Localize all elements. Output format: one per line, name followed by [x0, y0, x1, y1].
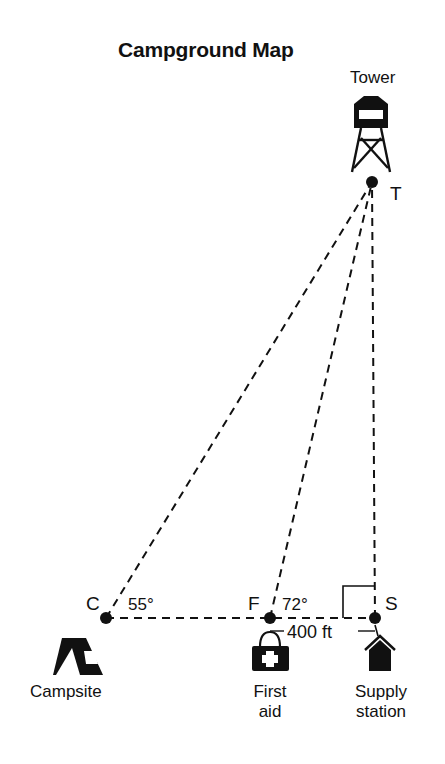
house-icon — [365, 625, 395, 671]
point-S — [369, 612, 381, 624]
point-C-letter: C — [86, 594, 100, 614]
campground-diagram — [0, 0, 445, 764]
line-FT — [270, 182, 372, 618]
line-ST — [372, 182, 375, 618]
angle-C-label: 55° — [128, 595, 154, 615]
first-aid-label: First aid — [240, 682, 300, 722]
supply-station-label-line1: Supply — [346, 682, 416, 702]
tent-icon — [53, 638, 103, 675]
tower-icon — [352, 96, 390, 172]
first-aid-label-line1: First — [240, 682, 300, 702]
campsite-label: Campsite — [30, 682, 102, 702]
right-angle-marker — [343, 586, 375, 618]
point-C — [100, 612, 112, 624]
point-F-letter: F — [248, 594, 260, 614]
line-CT — [106, 182, 372, 618]
first-aid-icon — [252, 632, 289, 671]
point-S-letter: S — [385, 594, 398, 614]
distance-FS-label: 400 ft — [287, 622, 332, 642]
point-T — [366, 176, 378, 188]
supply-station-label-line2: station — [346, 702, 416, 722]
point-F — [264, 612, 276, 624]
first-aid-label-line2: aid — [240, 702, 300, 722]
supply-station-label: Supply station — [346, 682, 416, 722]
point-T-letter: T — [390, 184, 402, 204]
angle-F-label: 72° — [282, 595, 308, 615]
tower-label: Tower — [350, 68, 395, 88]
